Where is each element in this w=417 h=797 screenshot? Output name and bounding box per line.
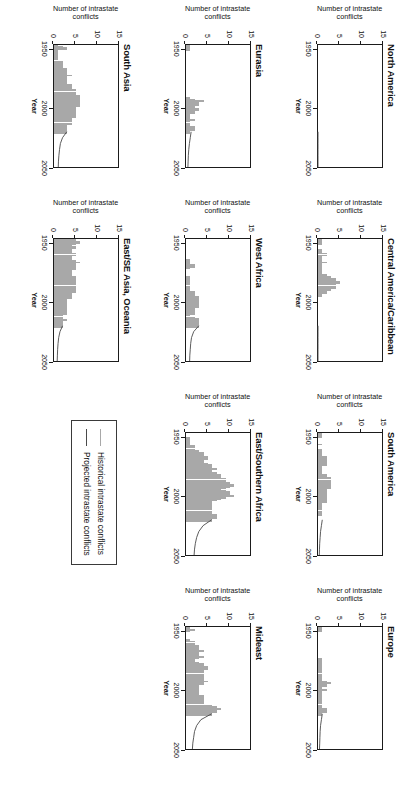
plot-area — [317, 238, 383, 362]
x-tick-mark — [182, 302, 186, 303]
x-axis-title: Year — [30, 76, 39, 136]
y-tick-mark — [360, 623, 361, 627]
x-tick-mark — [182, 556, 186, 557]
y-tick-label: 15 — [380, 216, 387, 232]
panel-title: Europe — [386, 626, 397, 790]
x-tick-mark — [314, 108, 318, 109]
panel-title: West Africa — [254, 238, 265, 402]
projected-line — [318, 239, 382, 361]
y-tick-label: 10 — [226, 22, 233, 38]
legend-swatch-projected-icon — [87, 429, 88, 446]
y-tick-label: 0 — [314, 604, 321, 620]
x-tick-mark — [182, 243, 186, 244]
x-axis-title: Year — [294, 76, 303, 136]
y-tick-mark — [382, 623, 383, 627]
y-tick-mark — [228, 41, 229, 45]
plot-area — [185, 44, 251, 168]
rotated-figure-wrapper: North America051015Number of intrastatec… — [0, 0, 417, 797]
x-tick-label: 2050 — [305, 155, 312, 181]
x-tick-label: 2000 — [41, 289, 48, 315]
y-tick-label: 15 — [248, 604, 255, 620]
x-tick-label: 2000 — [173, 677, 180, 703]
y-tick-label: 10 — [226, 604, 233, 620]
y-axis-title: Number of intrastateconflicts — [317, 199, 383, 216]
x-tick-label: 2000 — [41, 95, 48, 121]
panel-west-africa: West Africa051015Number of intrastatecon… — [153, 208, 265, 372]
x-tick-mark — [314, 302, 318, 303]
panel-title: Mideast — [254, 626, 265, 790]
y-tick-label: 15 — [248, 216, 255, 232]
y-axis-title-line: conflicts — [317, 207, 383, 215]
panel-title: East/SE Asia, Oceania — [122, 238, 133, 402]
y-tick-mark — [250, 41, 251, 45]
y-tick-label: 5 — [336, 410, 343, 426]
y-axis-title-line: conflicts — [53, 207, 119, 215]
x-tick-mark — [50, 243, 54, 244]
x-tick-mark — [314, 168, 318, 169]
projected-line — [186, 627, 250, 749]
y-tick-mark — [316, 623, 317, 627]
y-tick-label: 0 — [50, 22, 57, 38]
y-tick-label: 10 — [358, 410, 365, 426]
panel-grid: North America051015Number of intrastatec… — [0, 0, 417, 797]
plot-area — [317, 626, 383, 750]
y-axis-title-line: conflicts — [185, 595, 251, 603]
y-axis-title: Number of intrastateconflicts — [185, 199, 251, 216]
y-axis-title-line: conflicts — [317, 401, 383, 409]
y-tick-label: 5 — [336, 604, 343, 620]
y-axis-title: Number of intrastateconflicts — [53, 5, 119, 22]
x-tick-mark — [314, 496, 318, 497]
y-tick-label: 10 — [358, 216, 365, 232]
projected-line — [186, 433, 250, 555]
x-tick-label: 1950 — [173, 618, 180, 644]
y-axis-title: Number of intrastateconflicts — [185, 393, 251, 410]
plot-area — [185, 238, 251, 362]
x-tick-label: 2000 — [173, 483, 180, 509]
x-tick-label: 1950 — [173, 424, 180, 450]
projected-line — [318, 45, 382, 167]
x-tick-mark — [182, 496, 186, 497]
x-tick-label: 1950 — [41, 36, 48, 62]
y-tick-label: 5 — [204, 604, 211, 620]
y-axis-title-line: conflicts — [317, 595, 383, 603]
x-tick-mark — [182, 362, 186, 363]
y-axis-title: Number of intrastateconflicts — [185, 587, 251, 604]
y-tick-mark — [96, 41, 97, 45]
legend-item-projected: Projected intrastate conflicts — [82, 429, 92, 556]
x-tick-mark — [182, 168, 186, 169]
y-tick-label: 10 — [226, 410, 233, 426]
panel-south-asia: South Asia051015Number of intrastateconf… — [21, 14, 133, 178]
y-axis-title-line: conflicts — [317, 13, 383, 21]
y-axis-title-line: conflicts — [53, 13, 119, 21]
x-tick-mark — [314, 556, 318, 557]
projected-line — [318, 627, 382, 749]
y-tick-label: 5 — [204, 410, 211, 426]
y-tick-label: 15 — [248, 410, 255, 426]
y-tick-mark — [184, 429, 185, 433]
panel-title: South America — [386, 432, 397, 596]
y-tick-label: 5 — [336, 22, 343, 38]
plot-area — [185, 432, 251, 556]
y-tick-label: 10 — [358, 604, 365, 620]
y-tick-mark — [338, 623, 339, 627]
x-tick-mark — [182, 108, 186, 109]
x-tick-mark — [314, 243, 318, 244]
y-tick-mark — [228, 623, 229, 627]
panel-title: Central America/Caribbean — [386, 238, 397, 402]
y-tick-label: 0 — [182, 22, 189, 38]
panel-title: North America — [386, 44, 397, 208]
y-tick-label: 0 — [314, 410, 321, 426]
x-tick-label: 2050 — [41, 349, 48, 375]
y-tick-mark — [184, 41, 185, 45]
y-tick-label: 0 — [50, 216, 57, 232]
plot-area — [317, 44, 383, 168]
y-tick-label: 0 — [182, 216, 189, 232]
y-tick-mark — [52, 235, 53, 239]
y-tick-label: 10 — [94, 216, 101, 232]
y-tick-mark — [338, 41, 339, 45]
x-tick-mark — [182, 49, 186, 50]
panel-europe: Europe051015Number of intrastateconflict… — [285, 596, 397, 760]
plot-area — [53, 238, 119, 362]
x-tick-mark — [314, 750, 318, 751]
legend-item-historical: Historical intrastate conflicts — [96, 429, 106, 556]
